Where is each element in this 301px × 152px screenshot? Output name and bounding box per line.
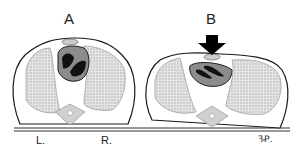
artist-signature: ꟻꝒ. — [258, 134, 273, 144]
chest-diagram — [0, 0, 301, 152]
floor-line — [14, 128, 290, 131]
compression-arrow-icon — [198, 35, 226, 55]
panel-b-label: B — [206, 10, 216, 27]
panel-a-label: A — [64, 10, 74, 27]
sternum — [62, 39, 78, 45]
right-lung — [226, 60, 281, 115]
right-side-label: R. — [101, 134, 112, 146]
left-side-label: L. — [36, 134, 45, 146]
panel-a-chest — [13, 38, 135, 124]
panel-b-chest — [146, 53, 288, 128]
